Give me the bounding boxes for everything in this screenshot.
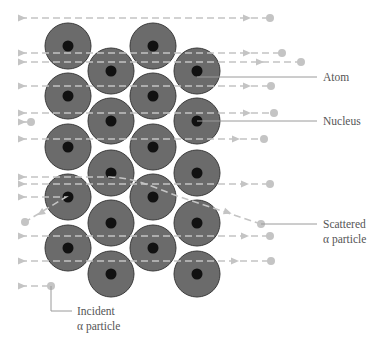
nucleus (106, 66, 117, 77)
arrow-head-icon (243, 50, 251, 57)
arrow-head-icon (243, 15, 251, 22)
nucleus (106, 116, 117, 127)
nucleus (192, 218, 203, 229)
arrow-head-icon (18, 50, 26, 57)
arrow-head-icon (18, 119, 26, 126)
nucleus (106, 269, 117, 280)
arrow-head-icon (241, 181, 249, 188)
atom (45, 174, 91, 220)
atom (88, 98, 134, 144)
nucleus (148, 243, 159, 254)
nucleus (192, 66, 203, 77)
atom (130, 225, 176, 271)
alpha-particle (278, 49, 286, 57)
alpha-particle (270, 109, 278, 117)
atom (130, 73, 176, 119)
nucleus (192, 269, 203, 280)
arrow-head-icon (243, 83, 251, 90)
atom (45, 73, 91, 119)
nucleus (148, 142, 159, 153)
alpha-particle (266, 180, 274, 188)
atom (88, 150, 134, 196)
atom-label: Atom (323, 71, 349, 83)
atom (45, 124, 91, 170)
nucleus (148, 41, 159, 52)
nucleus (63, 243, 74, 254)
alpha-particle (266, 232, 274, 240)
arrow-head-icon (232, 136, 240, 143)
nucleus (106, 218, 117, 229)
arrow-head-icon (18, 15, 26, 22)
scattered-label-line1: Scattered (323, 218, 366, 230)
arrow-head-icon (18, 194, 26, 201)
nucleus (148, 91, 159, 102)
atom (45, 225, 91, 271)
arrow-head-icon (18, 283, 26, 290)
nucleus (63, 91, 74, 102)
arrow-head-icon (223, 208, 233, 217)
arrow-head-icon (18, 59, 26, 66)
nucleus (63, 41, 74, 52)
alpha-particle (27, 118, 35, 126)
atom (174, 200, 220, 246)
nucleus (148, 192, 159, 203)
alpha-particle (297, 58, 305, 66)
atom (130, 174, 176, 220)
alpha-particle (267, 257, 275, 265)
incident-label-line1: Incident (77, 305, 115, 317)
incident-leader-line (51, 286, 72, 311)
nucleus (63, 142, 74, 153)
arrow-head-icon (18, 83, 26, 90)
alpha-particle (260, 135, 268, 143)
atom (174, 251, 220, 297)
alpha-particle (266, 14, 274, 22)
atom (130, 124, 176, 170)
arrow-head-icon (18, 181, 26, 188)
atom (174, 150, 220, 196)
rutherford-scattering-diagram: Atom Nucleus Scattered α particle Incide… (0, 0, 379, 348)
alpha-particle-path (18, 118, 35, 126)
arrow-head-icon (18, 136, 26, 143)
arrow-head-icon (18, 110, 26, 117)
arrow-head-icon (241, 233, 249, 240)
arrow-head-icon (18, 233, 26, 240)
alpha-particle-path (18, 282, 55, 290)
alpha-particle-path (18, 14, 274, 22)
nucleus-label: Nucleus (323, 115, 361, 127)
arrow-head-icon (243, 110, 251, 117)
atom (88, 251, 134, 297)
arrow-head-icon (256, 59, 264, 66)
atom-lattice (45, 23, 220, 297)
atom (88, 48, 134, 94)
alpha-particle (21, 218, 29, 226)
incident-label-line2: α particle (77, 320, 120, 333)
scattered-label-line2: α particle (323, 233, 366, 246)
atom (88, 200, 134, 246)
arrow-head-icon (18, 258, 26, 265)
arrow-head-icon (18, 174, 26, 181)
atom (174, 48, 220, 94)
arrow-head-icon (231, 258, 239, 265)
nucleus (192, 168, 203, 179)
alpha-particle (267, 82, 275, 90)
